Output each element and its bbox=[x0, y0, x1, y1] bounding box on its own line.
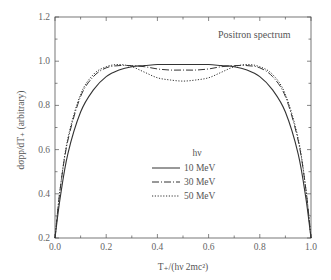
axis-ticks bbox=[55, 17, 311, 238]
y-axis-title: dσpp/dT₊ (arbitrary) bbox=[16, 91, 27, 170]
x-tick-label: 0.0 bbox=[49, 242, 61, 252]
y-tick-label: 1.2 bbox=[38, 12, 50, 22]
y-tick-label: 0.6 bbox=[38, 145, 50, 155]
positron-spectrum-chart: dσpp/dT₊ (arbitrary) 0.00.20.40.60.81.0 … bbox=[0, 0, 331, 280]
legend-label: 30 MeV bbox=[184, 177, 216, 187]
x-tick-label: 0.8 bbox=[254, 242, 266, 252]
x-tick-label: 0.6 bbox=[203, 242, 215, 252]
y-tick-label: 0.4 bbox=[38, 189, 50, 199]
y-tick-labels: 0.20.40.60.81.01.2 bbox=[38, 12, 50, 243]
y-tick-label: 1.0 bbox=[38, 56, 50, 66]
plot-frame bbox=[55, 17, 311, 238]
legend-label: 10 MeV bbox=[184, 163, 216, 173]
x-tick-label: 0.2 bbox=[100, 242, 112, 252]
series-line-10-mev bbox=[55, 64, 311, 238]
y-tick-label: 0.8 bbox=[38, 100, 50, 110]
annotation-positron-spectrum: Positron spectrum bbox=[218, 29, 291, 40]
x-tick-label: 1.0 bbox=[305, 242, 317, 252]
legend-label: 50 MeV bbox=[184, 191, 216, 201]
svg-text:dσpp/dT₊ (arbitrary): dσpp/dT₊ (arbitrary) bbox=[16, 91, 27, 170]
legend: hν 10 MeV30 MeV50 MeV bbox=[152, 148, 216, 201]
series-line-30-mev bbox=[55, 65, 311, 238]
y-tick-label: 0.2 bbox=[38, 233, 50, 243]
x-tick-label: 0.4 bbox=[151, 242, 163, 252]
legend-title: hν bbox=[192, 148, 202, 158]
data-series bbox=[55, 64, 311, 238]
x-tick-labels: 0.00.20.40.60.81.0 bbox=[49, 242, 317, 252]
x-axis-title: T₊/(hν 2mc²) bbox=[158, 262, 208, 273]
